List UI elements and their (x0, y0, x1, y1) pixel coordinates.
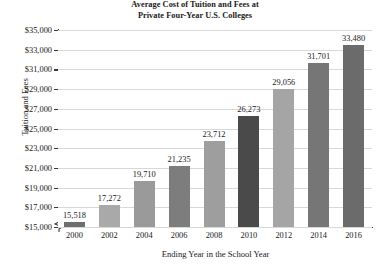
y-tick-mark (54, 148, 58, 149)
y-tick-label: $15,000 (25, 223, 52, 232)
y-tick-label: $17,000 (25, 203, 52, 212)
bar[interactable]: 23,712 (204, 141, 225, 227)
bar[interactable]: 19,710 (134, 181, 155, 227)
y-tick-label: $23,000 (25, 144, 52, 153)
y-tick-mark (54, 188, 58, 189)
gridline (58, 227, 372, 228)
x-tick-label: 2002 (101, 231, 118, 240)
bar-value-label: 33,480 (342, 34, 365, 43)
y-tick-label: $25,000 (25, 124, 52, 133)
bar[interactable]: 17,272 (99, 205, 120, 227)
y-tick-mark (54, 89, 58, 90)
bar-value-label: 19,710 (133, 170, 156, 179)
y-tick-mark (54, 207, 58, 208)
y-tick-mark (54, 50, 58, 51)
bar[interactable]: 31,701 (308, 63, 329, 228)
x-tick-label: 2006 (171, 231, 188, 240)
bar-value-label: 26,273 (237, 105, 260, 114)
y-tick-label: $31,000 (25, 65, 52, 74)
x-tick-label: 2014 (310, 231, 327, 240)
bar-value-label: 17,272 (98, 194, 121, 203)
y-tick-mark (54, 129, 58, 130)
x-tick-label: 2008 (206, 231, 223, 240)
chart-title-line-2: Private Four-Year U.S. Colleges (75, 11, 315, 22)
x-tick-label: 2010 (241, 231, 258, 240)
y-tick-mark (54, 30, 58, 31)
y-tick-label: $35,000 (25, 26, 52, 35)
y-tick-label: $21,000 (25, 163, 52, 172)
y-tick-mark (54, 69, 58, 70)
bar[interactable]: 15,518 (64, 222, 85, 227)
y-tick-label: $33,000 (25, 45, 52, 54)
bar[interactable]: 21,235 (169, 166, 190, 227)
bar[interactable]: 26,273 (238, 116, 259, 227)
y-tick-label: $19,000 (25, 183, 52, 192)
bar-value-label: 31,701 (307, 52, 330, 61)
x-tick-label: 2012 (275, 231, 292, 240)
chart-title-line-1: Average Cost of Tuition and Fees at (75, 0, 315, 11)
plot-area: $35,000$33,000$31,000$29,000$27,000$25,0… (58, 30, 372, 227)
y-tick-mark (54, 168, 58, 169)
bar-value-label: 29,056 (272, 78, 295, 87)
bar[interactable]: 29,056 (273, 89, 294, 227)
y-tick-label: $27,000 (25, 104, 52, 113)
bar-value-label: 23,712 (202, 130, 225, 139)
chart-title: Average Cost of Tuition and Fees at Priv… (75, 0, 315, 21)
bar-value-label: 21,235 (168, 155, 191, 164)
x-tick-label: 2000 (66, 231, 83, 240)
chart-figure: Average Cost of Tuition and Fees at Priv… (0, 0, 377, 270)
bar[interactable]: 33,480 (343, 45, 364, 227)
y-tick-mark (54, 227, 58, 228)
y-tick-label: $29,000 (25, 85, 52, 94)
y-tick-mark (54, 109, 58, 110)
x-tick-label: 2016 (345, 231, 362, 240)
gridline (58, 30, 372, 31)
x-tick-label: 2004 (136, 231, 153, 240)
x-axis-title: Ending Year in the School Year (58, 249, 373, 259)
bar-value-label: 15,518 (63, 211, 86, 220)
